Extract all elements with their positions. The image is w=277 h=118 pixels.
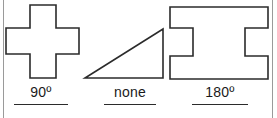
label-text-3: 180º	[205, 85, 234, 100]
label-text-1: 90º	[30, 85, 51, 100]
label-cell-3: 180º	[192, 85, 248, 105]
label-rule-1	[14, 104, 68, 105]
label-rule-2	[104, 104, 156, 105]
i-beam-shape	[167, 4, 273, 82]
figure-root: 90º none 180º	[0, 0, 277, 118]
label-rule-3	[192, 104, 248, 105]
label-text-2: none	[114, 85, 146, 100]
label-cell-2: none	[104, 85, 156, 105]
cross-plus-shape	[4, 3, 82, 81]
label-cell-1: 90º	[14, 85, 68, 105]
right-triangle-shape	[82, 25, 166, 81]
